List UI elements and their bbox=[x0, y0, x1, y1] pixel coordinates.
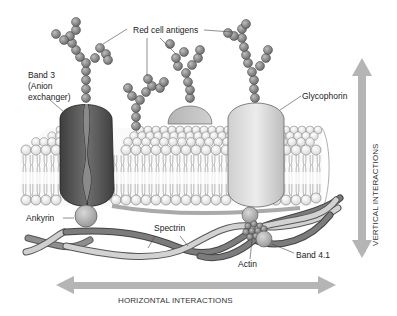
ankyrin-protein bbox=[75, 205, 97, 227]
label-band3-line1: Band 3 bbox=[28, 70, 55, 80]
band41-protein bbox=[256, 231, 272, 247]
band3-protein bbox=[60, 104, 114, 210]
label-vertical-interactions: VERTICAL INTERACTIONS bbox=[371, 143, 381, 246]
label-ankyrin: Ankyrin bbox=[26, 213, 54, 223]
label-glycophorin: Glycophorin bbox=[302, 91, 347, 101]
membrane-diagram: Red cell antigens Band 3 (Anion exchange… bbox=[0, 0, 397, 316]
peripheral-protein bbox=[168, 106, 212, 124]
label-spectrin: Spectrin bbox=[154, 223, 185, 233]
label-band3-line3: exchanger) bbox=[28, 92, 71, 102]
diagram-canvas bbox=[0, 0, 397, 316]
label-red-cell-antigens: Red cell antigens bbox=[133, 25, 198, 35]
horizontal-interactions-arrow bbox=[56, 276, 336, 294]
vertical-interactions-arrow bbox=[352, 58, 372, 258]
label-actin: Actin bbox=[238, 259, 257, 269]
label-band3-line2: (Anion bbox=[28, 81, 53, 91]
glycophorin-protein bbox=[228, 103, 284, 207]
label-horizontal-interactions: HORIZONTAL INTERACTIONS bbox=[118, 296, 233, 306]
label-band41: Band 4.1 bbox=[296, 250, 330, 260]
